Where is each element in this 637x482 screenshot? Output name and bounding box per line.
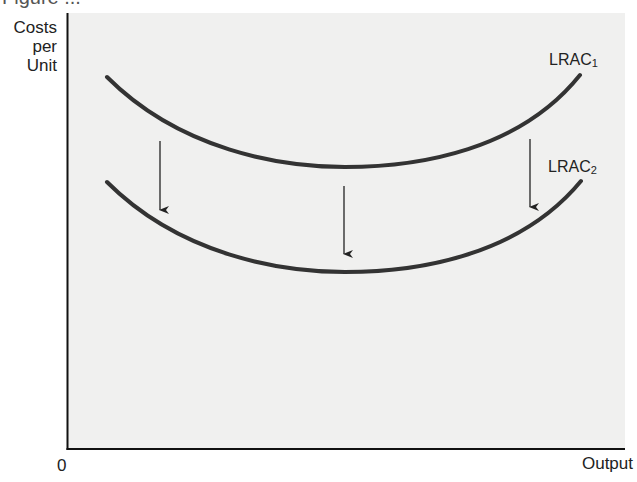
lrac2-label: LRAC2 — [548, 158, 597, 176]
chart-svg: LRAC1 LRAC2 — [0, 0, 637, 482]
lrac1-curve — [107, 75, 580, 167]
lrac1-label: LRAC1 — [549, 51, 598, 69]
